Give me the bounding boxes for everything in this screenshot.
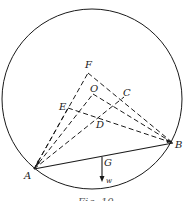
- label-C: C: [123, 87, 131, 98]
- figure-caption: Fig. 10: [77, 196, 114, 201]
- line-AE: [34, 108, 68, 169]
- label-D: D: [95, 119, 104, 130]
- label-A: A: [23, 170, 31, 181]
- circle-outline: [2, 9, 182, 189]
- label-w: w: [106, 177, 112, 185]
- label-G: G: [104, 157, 112, 168]
- line-OB: [93, 94, 173, 143]
- label-F: F: [84, 59, 93, 70]
- arrow-down-icon: [100, 176, 105, 182]
- label-E: E: [58, 101, 67, 112]
- line-FB: [88, 73, 173, 143]
- label-B: B: [174, 139, 182, 150]
- line-EB: [68, 108, 173, 143]
- label-O: O: [90, 83, 98, 94]
- geometry-figure: F O C E D B A G w Fig. 10: [0, 0, 185, 201]
